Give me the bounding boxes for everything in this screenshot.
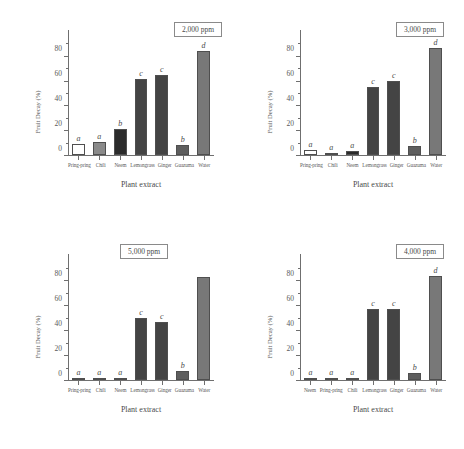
bar-significance-letter: c: [160, 66, 164, 74]
y-tick-label: 40: [287, 95, 295, 103]
x-axis-label: Ginger: [155, 163, 175, 168]
x-tick: [99, 381, 100, 385]
x-tick: [331, 381, 332, 385]
plot-area: 020406080 aaaccbd Pring-pringChiliNeemLe…: [300, 42, 446, 156]
x-axis-label: Neem: [111, 388, 131, 393]
x-tick: [141, 381, 142, 385]
x-axis-label: Lemongrass: [130, 388, 154, 393]
bar-lemongrass: c: [367, 87, 380, 155]
y-tick-label: 60: [55, 70, 63, 78]
bar-significance-letter: b: [413, 137, 417, 145]
bar-significance-letter: c: [139, 309, 143, 317]
bar-ginger: c: [155, 322, 168, 380]
x-axis-labels: Pring-pringChiliNeemLemongrassGingerGuaz…: [68, 163, 214, 168]
x-axis-label: Chili: [323, 163, 343, 168]
x-tick: [415, 381, 416, 385]
bar-slot: b: [404, 266, 425, 380]
y-tick-label: 40: [55, 320, 63, 328]
bar-water: d: [197, 51, 210, 155]
x-axis-label: Chili: [91, 163, 111, 168]
plot-area: 020406080 aabccbd Pring-pringChiliNeemLe…: [68, 42, 214, 156]
x-tick: [352, 381, 353, 385]
y-tick-label: 60: [287, 295, 295, 303]
bar-series: aaaccb: [68, 266, 214, 380]
x-axis-label: Pring-pring: [68, 388, 91, 393]
x-tick: [162, 156, 163, 160]
bar-ginger: c: [387, 81, 400, 155]
x-axis-title: Plant extract: [68, 405, 214, 414]
bar-pring-pring: a: [72, 144, 85, 155]
bar-water: [197, 277, 210, 380]
bar-slot: d: [193, 42, 214, 155]
bar-guazuma: b: [408, 146, 421, 155]
bar-slot: d: [425, 266, 446, 380]
x-tick: [415, 156, 416, 160]
bar-significance-letter: b: [118, 120, 122, 128]
bar-chili: a: [346, 378, 359, 380]
bar-significance-letter: a: [329, 369, 333, 377]
x-tick: [78, 381, 79, 385]
x-tick: [352, 156, 353, 160]
bar-slot: c: [363, 42, 384, 155]
y-tick-label: 20: [287, 120, 295, 128]
bar-slot: c: [131, 42, 152, 155]
x-tick: [78, 156, 79, 160]
ppm-label-box: 2,000 ppm: [174, 22, 222, 37]
x-tick: [120, 381, 121, 385]
bar-significance-letter: d: [434, 267, 438, 275]
bar-slot: a: [300, 42, 321, 155]
y-tick: [64, 155, 68, 156]
x-axis-title: Plant extract: [300, 180, 446, 189]
bar-slot: a: [89, 42, 110, 155]
bar-slot: a: [110, 266, 131, 380]
bar-significance-letter: c: [371, 78, 375, 86]
bar-significance-letter: c: [392, 300, 396, 308]
chart-panel-4000ppm: 4,000 ppm Fruit Decay (%) 020406080 aaac…: [232, 224, 464, 449]
x-axis-label: Chili: [343, 388, 363, 393]
x-axis-label: Pring-pring: [300, 163, 323, 168]
ppm-label-box: 3,000 ppm: [396, 22, 444, 37]
bar-lemongrass: c: [135, 318, 148, 380]
x-axis-label: Lemongrass: [362, 388, 386, 393]
bar-significance-letter: b: [181, 362, 185, 370]
bar-guazuma: b: [176, 145, 189, 155]
x-axis-label: Guazuma: [406, 163, 426, 168]
bar-significance-letter: b: [181, 136, 185, 144]
bar-slot: a: [321, 42, 342, 155]
x-axis-label: Pring-pring: [320, 388, 343, 393]
bar-slot: b: [404, 42, 425, 155]
bar-pring-pring: a: [72, 378, 85, 380]
bar-slot: c: [383, 266, 404, 380]
bar-significance-letter: d: [434, 39, 438, 47]
x-tick: [99, 156, 100, 160]
y-tick: [296, 380, 300, 381]
y-tick-label: 0: [290, 370, 294, 378]
x-axis-label: Lemongrass: [130, 163, 154, 168]
bar-slot: b: [172, 266, 193, 380]
x-axis-label: Water: [426, 163, 446, 168]
x-tick: [436, 156, 437, 160]
x-axis-label: Guazuma: [406, 388, 426, 393]
bar-slot: a: [321, 266, 342, 380]
x-tick: [162, 381, 163, 385]
bar-chili: a: [93, 142, 106, 156]
y-tick-label: 80: [55, 46, 63, 54]
bar-significance-letter: a: [97, 133, 101, 141]
bar-chili: a: [93, 378, 106, 380]
x-axis-label: Water: [426, 388, 446, 393]
x-axis-title: Plant extract: [300, 405, 446, 414]
bar-significance-letter: a: [329, 144, 333, 152]
y-axis-title: Fruit Decay (%): [266, 315, 273, 358]
x-axis-label: Water: [194, 388, 214, 393]
bar-neem: a: [114, 378, 127, 380]
x-axis-labels: Pring-pringChiliNeemLemongrassGingerGuaz…: [300, 163, 446, 168]
x-tick: [310, 381, 311, 385]
chart-panel-2000ppm: 2,000 ppm Fruit Decay (%) 020406080 aabc…: [0, 0, 232, 224]
bar-water: d: [429, 48, 442, 155]
bar-slot: a: [68, 42, 89, 155]
x-tick: [436, 381, 437, 385]
bar-slot: d: [425, 42, 446, 155]
bar-slot: c: [131, 266, 152, 380]
x-axis-label: Water: [194, 163, 214, 168]
bar-slot: a: [342, 266, 363, 380]
